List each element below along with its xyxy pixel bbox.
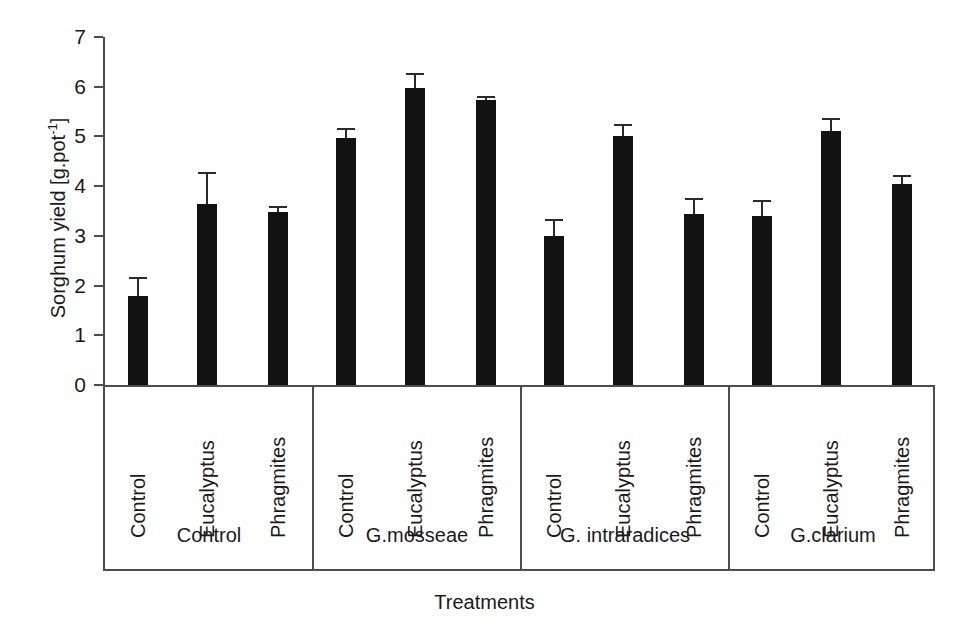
bar <box>405 88 425 385</box>
y-axis-tick <box>94 135 103 137</box>
bar <box>336 138 356 385</box>
group-label: Control <box>105 525 313 545</box>
bar <box>128 296 148 385</box>
error-bar-cap <box>545 219 563 221</box>
x-axis-tick-label: Phragmites <box>892 437 912 538</box>
bar <box>684 214 704 385</box>
x-axis-tick-label: Phragmites <box>476 437 496 538</box>
y-axis-tick <box>94 235 103 237</box>
error-bar-cap <box>198 172 216 174</box>
plot-area <box>103 37 935 385</box>
error-bar-stem <box>206 172 208 203</box>
error-bar-stem <box>414 73 416 88</box>
bar <box>752 216 772 385</box>
y-axis-tick <box>94 384 103 386</box>
bar <box>544 236 564 385</box>
x-axis-title: Treatments <box>0 592 969 612</box>
error-bar-cap <box>337 128 355 130</box>
y-axis-tick-label: 7 <box>46 26 86 47</box>
y-axis-title-text: Sorghum yield [g.pot <box>47 135 69 318</box>
error-bar-cap <box>893 175 911 177</box>
error-bar-cap <box>753 200 771 202</box>
bar <box>197 204 217 385</box>
y-axis-tick <box>94 285 103 287</box>
bar <box>821 131 841 385</box>
y-axis-tick <box>94 185 103 187</box>
group-label: G.clarium <box>729 525 937 545</box>
error-bar-stem <box>137 277 139 296</box>
error-bar-stem <box>761 200 763 216</box>
error-bar-stem <box>830 118 832 132</box>
category-label-band: ControlEucalyptusPhragmitesControlContro… <box>103 386 935 571</box>
bar <box>476 100 496 385</box>
y-axis-title-exponent: -1 <box>45 123 60 135</box>
group-label: G. intraradices <box>521 525 729 545</box>
error-bar-cap <box>406 73 424 75</box>
error-bar-stem <box>553 219 555 235</box>
error-bar-stem <box>693 198 695 214</box>
x-axis-tick-label: Phragmites <box>268 437 288 538</box>
error-bar-cap <box>822 118 840 120</box>
error-bar-cap <box>269 206 287 208</box>
error-bar-cap <box>614 124 632 126</box>
bar <box>892 184 912 385</box>
y-axis-tick <box>94 86 103 88</box>
y-axis-tick <box>94 334 103 336</box>
error-bar-cap <box>477 96 495 98</box>
y-axis-tick <box>94 36 103 38</box>
y-axis-title: Sorghum yield [g.pot-1] <box>47 68 69 368</box>
group-label: G.mosseae <box>313 525 521 545</box>
error-bar-cap <box>129 277 147 279</box>
bar <box>613 136 633 385</box>
x-axis-tick-label: Phragmites <box>684 437 704 538</box>
bar <box>268 212 288 385</box>
y-axis-title-suffix: ] <box>47 118 69 124</box>
chart-figure: 01234567 Sorghum yield [g.pot-1] Control… <box>0 0 969 639</box>
y-axis-tick-label: 0 <box>46 374 86 395</box>
error-bar-cap <box>685 198 703 200</box>
